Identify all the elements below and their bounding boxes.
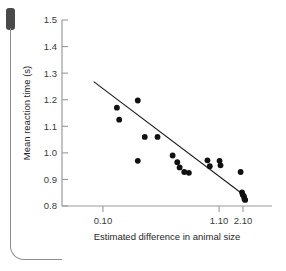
y-tick-label: 0.8 (44, 200, 57, 211)
y-axis-ticks: 0.80.91.01.11.21.31.41.5 (44, 14, 68, 211)
y-axis: 0.80.91.01.11.21.31.41.5 (44, 14, 68, 211)
scatter-chart: 0.80.91.01.11.21.31.41.5 0.101.102.10 Es… (0, 0, 286, 271)
x-axis-label: Estimated difference in animal size (94, 231, 241, 242)
y-tick-label: 1.0 (44, 147, 57, 158)
y-tick-label: 1.1 (44, 121, 57, 132)
data-point (205, 157, 211, 163)
data-point (170, 153, 176, 159)
data-point (186, 170, 192, 176)
x-tick-label: 2.10 (234, 215, 253, 226)
y-tick-label: 1.4 (44, 41, 57, 52)
data-point (218, 162, 224, 168)
data-point (242, 197, 248, 203)
regression-line (94, 82, 243, 194)
data-point (116, 117, 122, 123)
y-tick-label: 1.2 (44, 94, 57, 105)
x-axis: 0.101.102.10 (62, 206, 272, 226)
data-point (114, 105, 120, 111)
x-tick-label: 1.10 (210, 215, 229, 226)
data-point (155, 134, 161, 140)
y-axis-label: Mean reaction time (s) (21, 66, 32, 161)
data-point (177, 165, 183, 171)
y-tick-label: 0.9 (44, 174, 57, 185)
data-points (114, 98, 248, 203)
y-tick-label: 1.5 (44, 14, 57, 25)
regression-line-segment (94, 82, 243, 194)
data-point (207, 163, 213, 169)
data-point (238, 169, 244, 175)
data-point (135, 98, 141, 104)
figure-container: 0.80.91.01.11.21.31.41.5 0.101.102.10 Es… (0, 0, 286, 271)
data-point (174, 159, 180, 165)
y-tick-label: 1.3 (44, 68, 57, 79)
x-tick-label: 0.10 (94, 215, 113, 226)
data-point (142, 134, 148, 140)
x-axis-ticks: 0.101.102.10 (94, 206, 253, 226)
data-point (135, 158, 141, 164)
